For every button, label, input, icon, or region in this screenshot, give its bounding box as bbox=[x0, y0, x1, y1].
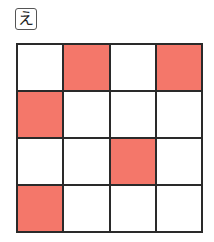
grid-cell-filled bbox=[18, 186, 62, 231]
grid-cell-empty bbox=[18, 45, 62, 90]
grid-cell-filled bbox=[157, 45, 201, 90]
grid-cell-empty bbox=[64, 92, 108, 137]
grid-cell-empty bbox=[64, 186, 108, 231]
grid-cell-empty bbox=[64, 139, 108, 184]
option-label: え bbox=[15, 8, 37, 30]
grid-cell-empty bbox=[157, 186, 201, 231]
grid-cell-filled bbox=[111, 139, 155, 184]
grid-cell-filled bbox=[64, 45, 108, 90]
grid-cell-empty bbox=[157, 92, 201, 137]
grid-cell-empty bbox=[111, 92, 155, 137]
grid-cell-empty bbox=[111, 45, 155, 90]
pattern-grid bbox=[16, 43, 203, 233]
grid-cell-filled bbox=[18, 92, 62, 137]
grid-cell-empty bbox=[111, 186, 155, 231]
grid-cell-empty bbox=[18, 139, 62, 184]
grid-cell-empty bbox=[157, 139, 201, 184]
